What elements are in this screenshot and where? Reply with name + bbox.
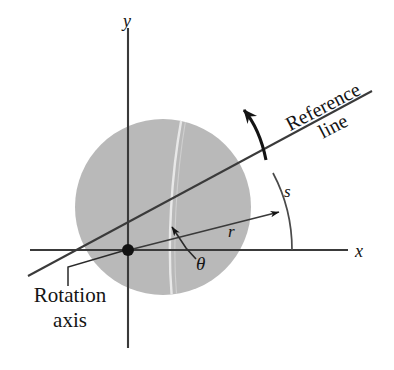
angle-theta-label: θ <box>196 254 205 273</box>
rotation-diagram-figure: y x r s θ Rotation axis Reference line <box>0 0 394 370</box>
x-axis-label: x <box>355 242 363 260</box>
arc-length-label: s <box>284 183 291 200</box>
rotation-direction-arrow <box>244 110 266 160</box>
y-axis-label: y <box>123 12 131 30</box>
rotation-axis-label: Rotation axis <box>6 283 134 333</box>
rotation-axis-label-line2: axis <box>6 308 134 333</box>
rigid-body-disk <box>75 116 251 300</box>
radius-label: r <box>228 223 235 240</box>
origin-dot <box>122 244 134 256</box>
rotation-axis-label-line1: Rotation <box>6 283 134 308</box>
